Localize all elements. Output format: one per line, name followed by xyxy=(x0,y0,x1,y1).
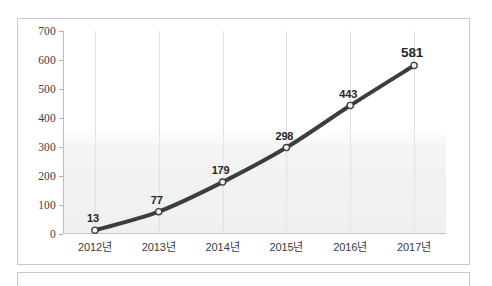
y-axis-tick-label: 600 xyxy=(38,54,56,66)
plot-area: 0100200300400500600700 1377179298443581 … xyxy=(63,31,446,234)
y-axis-tick-label: 0 xyxy=(50,228,56,240)
line-series xyxy=(63,31,446,234)
y-axis-tick-label: 100 xyxy=(38,199,56,211)
data-point-label: 581 xyxy=(401,45,423,60)
y-axis-tick-label: 700 xyxy=(38,25,56,37)
data-point-marker xyxy=(92,227,98,233)
series-line xyxy=(95,66,414,231)
data-point-marker xyxy=(347,102,353,108)
y-axis-tick-label: 500 xyxy=(38,83,56,95)
y-axis-tick-label: 400 xyxy=(38,112,56,124)
data-point-marker xyxy=(219,179,225,185)
x-axis-tick-label: 2014년 xyxy=(206,238,240,254)
y-axis-tick-label: 300 xyxy=(38,141,56,153)
x-axis-tick-label: 2015년 xyxy=(269,238,303,254)
data-point-label: 13 xyxy=(87,212,99,224)
x-axis-tick-label: 2017년 xyxy=(397,238,431,254)
data-point-label: 179 xyxy=(212,164,230,176)
data-point-marker xyxy=(411,62,417,68)
x-axis-tick-label: 2016년 xyxy=(333,238,367,254)
chart-frame: 0100200300400500600700 1377179298443581 … xyxy=(17,18,470,265)
data-point-marker xyxy=(283,144,289,150)
x-axis-tick-label: 2012년 xyxy=(78,238,112,254)
lower-partial-frame xyxy=(17,272,470,286)
data-point-label: 298 xyxy=(276,130,294,142)
data-point-label: 443 xyxy=(339,88,357,100)
x-axis-tick-label: 2013년 xyxy=(142,238,176,254)
data-point-marker xyxy=(156,209,162,215)
y-axis-tick-label: 200 xyxy=(38,170,56,182)
data-point-label: 77 xyxy=(151,194,163,206)
y-axis-tick-mark xyxy=(59,234,63,235)
